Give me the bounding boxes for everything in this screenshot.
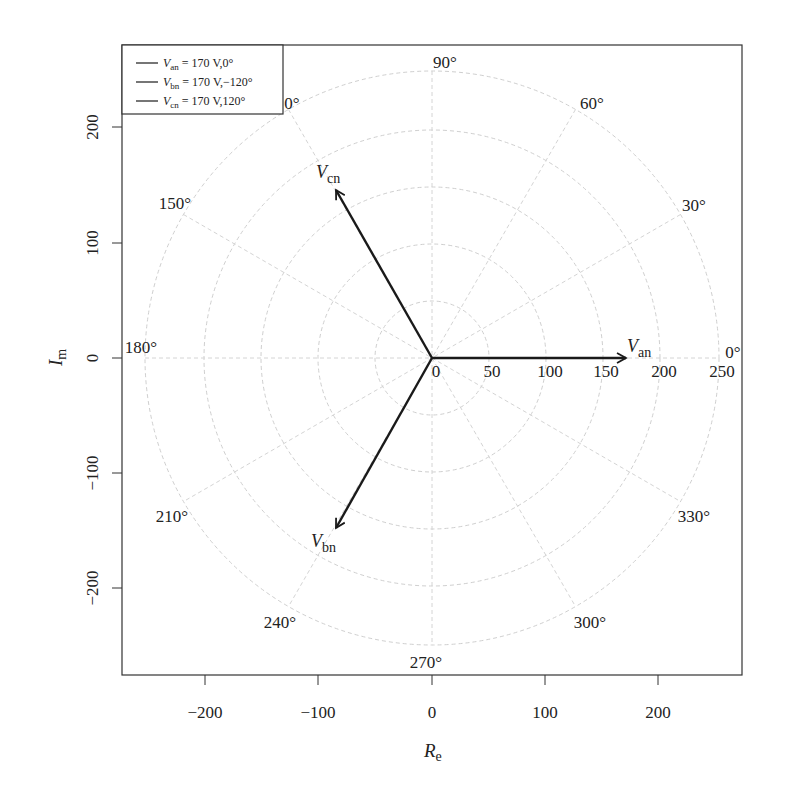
y-tick-label: −100 xyxy=(83,455,102,490)
angle-label-330: 330° xyxy=(678,507,710,526)
angle-label-120: 0° xyxy=(284,94,299,113)
x-tick-label: 100 xyxy=(532,703,558,722)
radial-label: 100 xyxy=(537,362,563,381)
angle-label-270: 270° xyxy=(410,653,442,672)
x-tick-label: −200 xyxy=(187,703,222,722)
angle-label-30: 30° xyxy=(682,196,706,215)
angle-label-60: 60° xyxy=(580,94,604,113)
radial-label: 200 xyxy=(651,362,677,381)
x-axis-label: Re xyxy=(423,740,442,764)
legend: Van = 170 V,0° Vbn = 170 V,−120° Vcn = 1… xyxy=(122,45,283,114)
y-axis xyxy=(112,127,122,588)
y-tick-label: −200 xyxy=(83,570,102,605)
phasor-vcn xyxy=(336,190,432,358)
van-label: Van xyxy=(627,336,651,360)
angle-label-0: 0° xyxy=(725,343,740,362)
radial-label: 250 xyxy=(709,362,735,381)
vbn-label: Vbn xyxy=(311,531,336,555)
radial-label: 50 xyxy=(484,362,501,381)
x-tick-label: −100 xyxy=(300,703,335,722)
y-axis-label: Im xyxy=(45,349,69,367)
y-tick-label: 100 xyxy=(83,230,102,256)
radial-label: 150 xyxy=(593,362,619,381)
phasor-vbn xyxy=(336,358,432,528)
angle-label-90: 90° xyxy=(433,53,457,72)
y-tick-label: 200 xyxy=(83,114,102,140)
radial-label: 0 xyxy=(432,362,441,381)
phasor-chart: −200 −100 0 100 200 Re 200 100 0 −100 −2… xyxy=(0,0,785,799)
angle-label-150: 150° xyxy=(159,194,191,213)
x-axis xyxy=(205,675,658,685)
x-tick-label: 0 xyxy=(428,703,437,722)
angle-label-240: 240° xyxy=(264,613,296,632)
x-tick-label: 200 xyxy=(645,703,671,722)
y-tick-label: 0 xyxy=(83,354,102,363)
angle-label-180: 180° xyxy=(125,338,157,357)
vcn-label: Vcn xyxy=(316,162,340,186)
angle-label-210: 210° xyxy=(156,507,188,526)
angle-label-300: 300° xyxy=(574,613,606,632)
